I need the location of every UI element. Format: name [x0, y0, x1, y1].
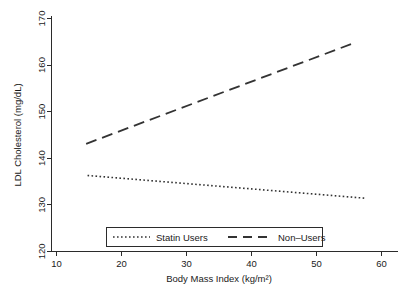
series-line-statin-users	[88, 175, 367, 198]
y-tick-label-140: 140	[36, 150, 47, 166]
y-axis-ticks	[47, 19, 52, 252]
line-chart: 170 160 150 140 130 120 LDL Cholesterol …	[0, 0, 409, 293]
chart-legend: Statin Users Non–Users	[107, 228, 326, 247]
legend-label-statin-users: Statin Users	[156, 232, 208, 243]
x-tick-label-10: 10	[51, 258, 62, 269]
x-tick-label-50: 50	[311, 258, 322, 269]
chart-figure: 170 160 150 140 130 120 LDL Cholesterol …	[0, 0, 409, 293]
y-tick-label-120: 120	[36, 243, 47, 259]
x-tick-label-40: 40	[246, 258, 257, 269]
legend-label-non-users: Non–Users	[278, 232, 326, 243]
x-tick-label-30: 30	[181, 258, 192, 269]
y-tick-label-150: 150	[36, 104, 47, 120]
y-tick-label-170: 170	[36, 11, 47, 27]
x-axis-ticks	[57, 252, 382, 257]
y-tick-label-130: 130	[36, 197, 47, 213]
x-tick-label-60: 60	[376, 258, 387, 269]
y-axis-title: LDL Cholesterol (mg/dL)	[12, 83, 23, 186]
series-line-non-users	[86, 44, 352, 144]
y-tick-label-160: 160	[36, 57, 47, 73]
x-axis-title: Body Mass Index (kg/m²)	[166, 273, 272, 284]
x-tick-label-20: 20	[116, 258, 127, 269]
